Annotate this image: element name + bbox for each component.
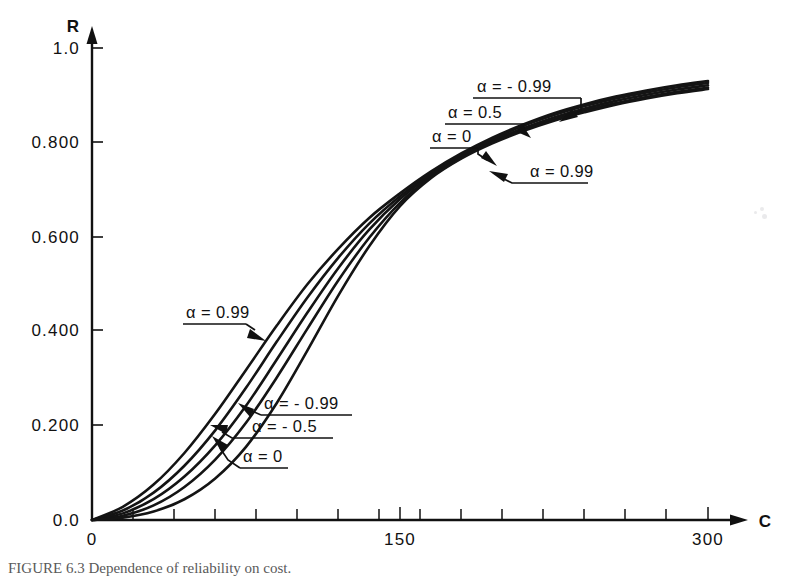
y-axis: 1.0 0.800 0.600 0.400 0.200 0.0 R [31, 17, 103, 530]
curve-series-0 [92, 81, 708, 520]
annotation-layer: α = - 0.99 α = 0.5 α = 0 α = [183, 77, 594, 468]
annotation-label: α = 0 [432, 127, 472, 145]
scan-artifact [752, 205, 768, 221]
annotation-label: α = - 0.5 [252, 417, 317, 435]
annotation-label: α = 0 [243, 447, 283, 465]
annotation-alpha-099-left: α = 0.99 [183, 303, 266, 341]
y-tick-label-5: 0.200 [31, 416, 80, 435]
x-tick-label-1: 0 [87, 530, 98, 549]
annotation-alpha-099-right: α = 0.99 [489, 162, 594, 183]
leader-arrowhead [247, 329, 266, 341]
curve-series-4 [92, 89, 708, 520]
figure-container: 1.0 0.800 0.600 0.400 0.200 0.0 R [0, 0, 786, 583]
y-tick-label-3: 0.600 [31, 228, 80, 247]
x-tick-label-3: 300 [692, 530, 724, 549]
y-tick-label-6: 0.0 [53, 511, 80, 530]
x-axis: 0 150 300 C [87, 507, 771, 549]
annotation-label: α = 0.99 [186, 303, 250, 321]
y-tick-label-4: 0.400 [31, 321, 80, 340]
x-axis-arrowhead [730, 515, 748, 526]
reliability-cost-chart: 1.0 0.800 0.600 0.400 0.200 0.0 R [0, 0, 786, 583]
curve-group [92, 81, 708, 520]
x-axis-label: C [759, 512, 771, 531]
leader-arrowhead [481, 151, 497, 166]
x-tick-label-2: 150 [384, 530, 416, 549]
figure-caption: FIGURE 6.3 Dependence of reliability on … [8, 560, 778, 582]
annotation-label: α = 0.99 [530, 162, 594, 180]
annotation-label: α = 0.5 [448, 103, 502, 121]
x-minor-ticks [92, 507, 708, 520]
annotation-label: α = - 0.99 [264, 394, 339, 412]
curve-series-3 [92, 88, 708, 520]
y-axis-label: R [67, 17, 79, 36]
y-axis-arrowhead [87, 26, 98, 44]
y-tick-label-1: 1.0 [53, 39, 80, 58]
annotation-label: α = - 0.99 [477, 77, 552, 95]
annotation-alpha-neg099-low: α = - 0.99 [238, 394, 352, 417]
y-tick-label-2: 0.800 [31, 133, 80, 152]
